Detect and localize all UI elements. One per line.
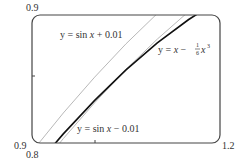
y-max-label: 0.9 <box>26 2 39 13</box>
svg-text:6: 6 <box>196 50 199 56</box>
label-sin-minus: y = sin x − 0.01 <box>77 123 139 134</box>
svg-text:3: 3 <box>207 43 210 49</box>
label-taylor: y = x − 1 6 x 3 <box>158 42 210 56</box>
x-max-label: 1.2 <box>222 140 235 151</box>
plot-area <box>32 0 220 167</box>
x-min-label: 0.9 <box>14 140 27 151</box>
svg-text:x: x <box>200 44 206 55</box>
label-sin-plus: y = sin x + 0.01 <box>60 29 122 40</box>
svg-text:y = x −: y = x − <box>158 44 187 55</box>
series-sin-minus <box>32 0 220 167</box>
svg-text:1: 1 <box>196 42 199 48</box>
y-min-label: 0.8 <box>26 149 39 160</box>
chart-canvas: 0.9 0.9 0.8 1.2 y = sin x + 0.01 y = x −… <box>0 0 242 167</box>
